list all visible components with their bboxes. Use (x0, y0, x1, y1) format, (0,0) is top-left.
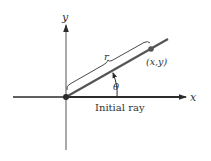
radius-brace (67, 42, 150, 90)
point-label: (x,y) (146, 56, 167, 67)
polar-diagram: y x r θ (x,y) Initial ray (0, 0, 211, 161)
y-axis-label: y (61, 11, 69, 24)
radius-label: r (104, 51, 110, 62)
angle-label: θ (113, 81, 119, 92)
point-xy (148, 46, 154, 52)
origin-point (63, 94, 69, 100)
x-axis-label: x (190, 91, 197, 104)
initial-ray-label: Initial ray (95, 102, 145, 113)
